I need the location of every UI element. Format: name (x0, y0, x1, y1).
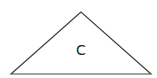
triangle-label: C (76, 42, 86, 58)
diagram-canvas: C (0, 0, 157, 78)
